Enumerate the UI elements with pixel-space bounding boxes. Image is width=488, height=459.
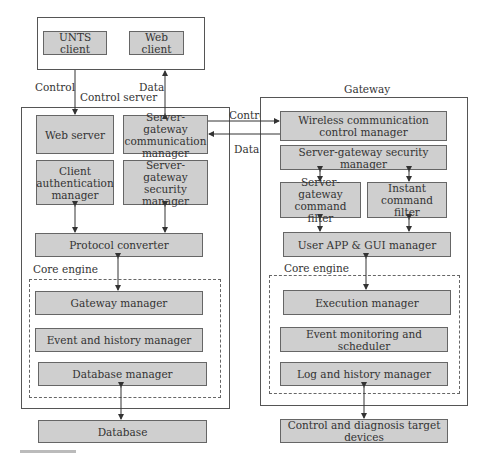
figure-caption-fragment: [20, 450, 76, 453]
connector-arrows: [0, 0, 488, 459]
